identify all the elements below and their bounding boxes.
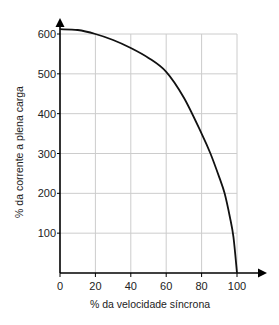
y-tick-label: 500 [38, 68, 56, 80]
axes [56, 18, 268, 278]
x-tick-labels: 020406080100 [57, 273, 246, 292]
chart: 020406080100 100200300400500600 % da vel… [0, 0, 279, 325]
y-tick-label: 600 [38, 28, 56, 40]
x-tick-label: 20 [89, 280, 101, 292]
current-curve [60, 29, 237, 273]
y-tick-label: 400 [38, 108, 56, 120]
x-tick-label: 0 [57, 280, 63, 292]
x-axis-label: % da velocidade síncrona [90, 298, 210, 310]
x-axis-arrow-icon [258, 269, 267, 278]
x-tick-label: 80 [195, 280, 207, 292]
y-axis-label: % da corrente a plena carga [13, 86, 25, 218]
x-tick-label: 60 [160, 280, 172, 292]
x-tick-label: 40 [125, 280, 137, 292]
y-tick-label: 200 [38, 187, 56, 199]
y-tick-labels: 100200300400500600 [38, 28, 60, 239]
x-tick-label: 100 [228, 280, 246, 292]
y-tick-label: 300 [38, 148, 56, 160]
y-axis-arrow-icon [56, 18, 65, 27]
y-tick-label: 100 [38, 227, 56, 239]
